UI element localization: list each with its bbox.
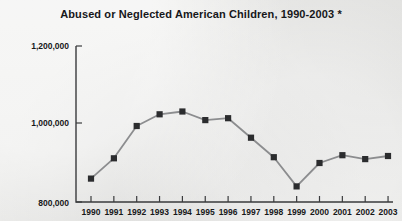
x-tick-label-2003: 2003 bbox=[379, 207, 398, 217]
y-tick-label-1000000: 1,000,000 bbox=[31, 118, 69, 128]
y-axis-tick-labels: 1,200,000 1,000,000 800,000 bbox=[31, 41, 69, 208]
data-point-1995 bbox=[202, 117, 208, 123]
x-tick-label-1992: 1992 bbox=[127, 207, 146, 217]
x-tick-label-1998: 1998 bbox=[264, 207, 283, 217]
x-tick-label-2000: 2000 bbox=[310, 207, 329, 217]
x-tick-label-1996: 1996 bbox=[219, 207, 238, 217]
x-axis-tick-labels: 1990199119921993199419951996199719981999… bbox=[82, 207, 398, 217]
x-tick-label-1997: 1997 bbox=[241, 207, 260, 217]
x-tick-label-1991: 1991 bbox=[104, 207, 123, 217]
data-series-markers bbox=[88, 108, 391, 189]
y-tick-label-800000: 800,000 bbox=[38, 198, 69, 208]
x-tick-label-1993: 1993 bbox=[150, 207, 169, 217]
data-point-1997 bbox=[248, 135, 254, 141]
data-point-1996 bbox=[225, 115, 231, 121]
chart-plot-area: 1,200,000 1,000,000 800,000 199019911992… bbox=[0, 0, 402, 221]
data-point-1994 bbox=[179, 108, 185, 114]
data-point-1990 bbox=[88, 176, 94, 182]
data-series-line bbox=[91, 112, 388, 187]
data-point-2002 bbox=[362, 156, 368, 162]
data-point-2000 bbox=[316, 160, 322, 166]
data-point-1991 bbox=[111, 155, 117, 161]
x-tick-label-1994: 1994 bbox=[173, 207, 192, 217]
data-point-1998 bbox=[271, 154, 277, 160]
x-axis-tick-marks bbox=[91, 196, 388, 202]
x-tick-label-2002: 2002 bbox=[356, 207, 375, 217]
chart-figure: Abused or Neglected American Children, 1… bbox=[0, 0, 402, 221]
x-tick-label-1995: 1995 bbox=[196, 207, 215, 217]
data-point-1992 bbox=[134, 123, 140, 129]
y-tick-label-1200000: 1,200,000 bbox=[31, 41, 69, 51]
x-tick-label-1990: 1990 bbox=[82, 207, 101, 217]
x-tick-label-1999: 1999 bbox=[287, 207, 306, 217]
y-axis-tick-marks bbox=[76, 46, 82, 202]
x-tick-label-2001: 2001 bbox=[333, 207, 352, 217]
data-point-1993 bbox=[157, 111, 163, 117]
data-point-1999 bbox=[294, 183, 300, 189]
data-point-2003 bbox=[385, 153, 391, 159]
data-point-2001 bbox=[339, 152, 345, 158]
